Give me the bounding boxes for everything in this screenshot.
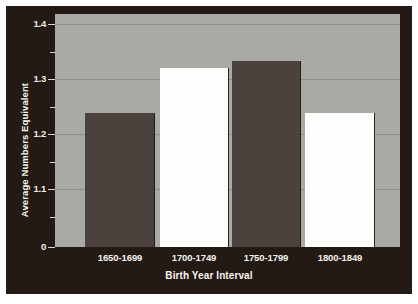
y-tick-1-2 [48,134,55,135]
bar-1650-1699[interactable] [85,113,155,247]
y-axis-label: Average Numbers Equivalent [19,70,30,230]
y-tick-label-1-1: 1.1 [33,184,46,194]
y-tick-1-35 [50,52,55,53]
y-tick-1-15 [50,162,55,163]
y-axis: Average Numbers Equivalent 1.4 1.3 1.2 1… [6,6,55,294]
y-tick-1-05 [50,217,55,218]
x-tick-label-1750-1799: 1750-1799 [244,252,289,263]
y-tick-label-1-3: 1.3 [33,74,46,84]
y-tick-1-4 [48,24,55,25]
gridline-1-4 [55,24,400,25]
bar-1750-1799[interactable] [232,61,301,247]
bar-chart-figure: Average Numbers Equivalent 1.4 1.3 1.2 1… [0,0,418,304]
bar-1700-1749[interactable] [160,68,229,247]
plot-area [55,14,400,247]
y-tick-1-1 [48,189,55,190]
y-tick-1-25 [50,107,55,108]
x-tick-label-1800-1849: 1800-1849 [318,252,363,263]
y-tick-label-1-2: 1.2 [33,129,46,139]
y-tick-1-3 [48,79,55,80]
y-tick-0 [48,247,55,248]
y-tick-label-0: 0 [41,242,46,252]
x-tick-label-1650-1699: 1650-1699 [98,252,143,263]
bar-1800-1849[interactable] [305,113,375,247]
x-axis-label: Birth Year Interval [0,270,418,281]
y-tick-label-1-4: 1.4 [33,19,46,29]
x-tick-label-1700-1749: 1700-1749 [172,252,217,263]
